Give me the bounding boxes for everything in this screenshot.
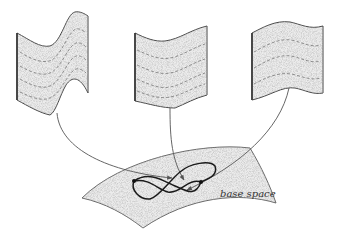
- left-fiber: [17, 12, 88, 115]
- middle-fiber: [135, 26, 207, 108]
- base-point-right: [199, 180, 203, 184]
- base-space-label: base space: [220, 188, 276, 199]
- right-fiber: [252, 22, 323, 100]
- base-point-left: [132, 179, 136, 183]
- fiber-bundle-diagram: base space: [0, 0, 338, 238]
